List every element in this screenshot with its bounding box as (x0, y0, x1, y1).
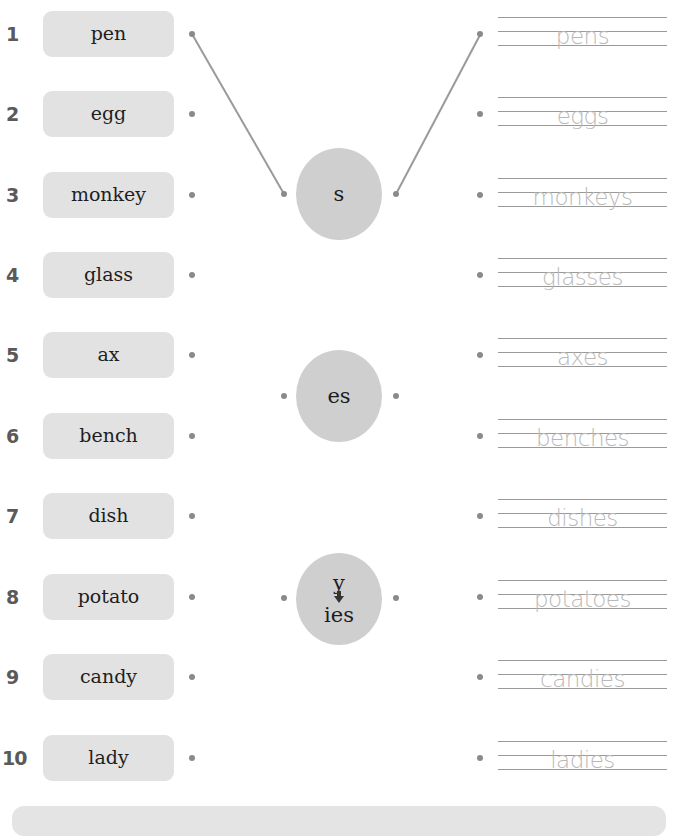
right-connector-dot[interactable] (477, 755, 483, 761)
row-number: 6 (6, 413, 36, 459)
exercise-row: 7 dish dishes (0, 493, 678, 553)
right-connector-dot[interactable] (477, 513, 483, 519)
word-box[interactable]: pen (43, 11, 174, 57)
word-box[interactable]: dish (43, 493, 174, 539)
left-connector-dot[interactable] (189, 674, 195, 680)
left-connector-dot[interactable] (189, 433, 195, 439)
row-number: 1 (6, 11, 36, 57)
row-number: 10 (2, 735, 32, 781)
answer-text: eggs (498, 105, 667, 127)
circle-right-connector-dot[interactable] (393, 595, 399, 601)
right-connector-dot[interactable] (477, 31, 483, 37)
answer-text: glasses (498, 266, 667, 288)
answer-writing-lines[interactable]: monkeys (498, 178, 667, 206)
right-connector-dot[interactable] (477, 433, 483, 439)
left-connector-dot[interactable] (189, 513, 195, 519)
suffix-label-bottom: ies (324, 604, 354, 626)
suffix-circle-s[interactable]: s (296, 148, 382, 240)
row-number: 3 (6, 172, 36, 218)
left-connector-dot[interactable] (189, 31, 195, 37)
exercise-row: 10 lady ladies (0, 735, 678, 795)
word-box[interactable]: lady (43, 735, 174, 781)
circle-right-connector-dot[interactable] (393, 393, 399, 399)
right-connector-dot[interactable] (477, 272, 483, 278)
answer-writing-lines[interactable]: candies (498, 660, 667, 688)
answer-text: ladies (498, 749, 667, 771)
suffix-label: es (327, 385, 350, 407)
exercise-row: 2 egg eggs (0, 91, 678, 151)
answer-writing-lines[interactable]: benches (498, 419, 667, 447)
exercise-row: 1 pen pens (0, 11, 678, 71)
right-connector-dot[interactable] (477, 594, 483, 600)
answer-text: monkeys (498, 186, 667, 208)
down-arrow-icon (334, 596, 344, 603)
row-number: 9 (6, 654, 36, 700)
right-connector-dot[interactable] (477, 352, 483, 358)
answer-writing-lines[interactable]: glasses (498, 258, 667, 286)
circle-right-connector-dot[interactable] (393, 191, 399, 197)
answer-writing-lines[interactable]: dishes (498, 499, 667, 527)
answer-text: dishes (498, 507, 667, 529)
word-box[interactable]: bench (43, 413, 174, 459)
suffix-label: s (334, 183, 345, 205)
suffix-circle-es[interactable]: es (296, 350, 382, 442)
left-connector-dot[interactable] (189, 594, 195, 600)
row-number: 7 (6, 493, 36, 539)
answer-text: axes (498, 346, 667, 368)
left-connector-dot[interactable] (189, 272, 195, 278)
right-connector-dot[interactable] (477, 111, 483, 117)
word-box[interactable]: glass (43, 252, 174, 298)
answer-writing-lines[interactable]: eggs (498, 97, 667, 125)
row-number: 8 (6, 574, 36, 620)
row-number: 2 (6, 91, 36, 137)
footer-bar (12, 806, 666, 836)
answer-writing-lines[interactable]: ladies (498, 741, 667, 769)
word-box[interactable]: potato (43, 574, 174, 620)
left-connector-dot[interactable] (189, 755, 195, 761)
row-number: 4 (6, 252, 36, 298)
word-box[interactable]: egg (43, 91, 174, 137)
suffix-circle-y-to-ies[interactable]: y ies (296, 553, 382, 645)
word-box[interactable]: candy (43, 654, 174, 700)
word-box[interactable]: monkey (43, 172, 174, 218)
answer-text: benches (498, 427, 667, 449)
answer-writing-lines[interactable]: axes (498, 338, 667, 366)
answer-text: candies (498, 668, 667, 690)
right-connector-dot[interactable] (477, 674, 483, 680)
row-number: 5 (6, 332, 36, 378)
left-connector-dot[interactable] (189, 192, 195, 198)
right-connector-dot[interactable] (477, 192, 483, 198)
left-connector-dot[interactable] (189, 111, 195, 117)
exercise-row: 4 glass glasses (0, 252, 678, 312)
answer-writing-lines[interactable]: pens (498, 17, 667, 45)
word-box[interactable]: ax (43, 332, 174, 378)
exercise-row: 9 candy candies (0, 654, 678, 714)
answer-text: potatoes (498, 588, 667, 610)
circle-left-connector-dot[interactable] (281, 595, 287, 601)
answer-text: pens (498, 25, 667, 47)
circle-left-connector-dot[interactable] (281, 393, 287, 399)
circle-left-connector-dot[interactable] (281, 191, 287, 197)
answer-writing-lines[interactable]: potatoes (498, 580, 667, 608)
left-connector-dot[interactable] (189, 352, 195, 358)
